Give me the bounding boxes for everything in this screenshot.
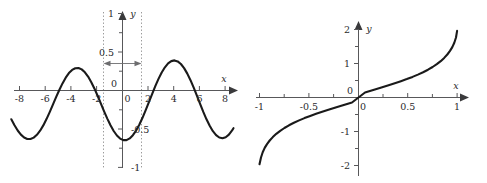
x-tick-label: 0.5 [400,101,415,112]
x-axis-arrowhead [460,94,469,102]
y-axis-name: y [129,8,136,19]
x-tick-label: 1 [454,101,460,112]
y-tick-label: 2 [344,24,350,35]
y-tick-label: -2 [341,160,350,171]
x-tick-label: -1 [255,101,264,112]
measure-arrow-head-right [135,61,142,67]
y-axis-arrowhead [355,21,363,30]
x-tick-label: 8 [222,93,228,104]
x-tick-label: -6 [41,93,50,104]
y-tick-label: 1 [344,58,350,69]
y-axis-name: y [365,23,372,34]
y-tick-label: -0.5 [131,124,149,135]
measure-arrow-head-left [104,61,111,67]
y-axis-arrowhead [119,11,127,20]
y-tick-label: 0.5 [99,47,114,58]
y-tick-label: 1 [108,8,114,19]
x-tick-label: -4 [66,93,75,104]
x-axis-arrowhead [229,87,238,95]
x-axis-name: x [453,80,459,91]
sine-wave-plot: -8 -6 -4 -2 0 2 4 6 8 1 0.5 0 -0.5 -1 x … [0,0,244,183]
x-tick-label-zero: 0 [124,93,130,104]
y-tick-label-zero: 0 [111,78,117,89]
y-tick-label: -1 [341,126,350,137]
figure-root: -8 -6 -4 -2 0 2 4 6 8 1 0.5 0 -0.5 -1 x … [0,0,487,183]
x-tick-label-zero: 0 [360,101,366,112]
sine-wave-svg: -8 -6 -4 -2 0 2 4 6 8 1 0.5 0 -0.5 -1 x … [0,0,244,183]
x-tick-label: 2 [145,93,151,104]
x-axis-name: x [221,73,227,84]
arcsine-svg: -1 -0.5 0 0.5 1 2 1 0 -1 -2 x y [244,0,487,183]
y-tick-label-zero: 0 [347,85,353,96]
x-tick-label: -8 [15,93,24,104]
x-tick-label: -2 [92,93,101,104]
arcsine-plot: -1 -0.5 0 0.5 1 2 1 0 -1 -2 x y [244,0,487,183]
y-tick-label: -1 [131,162,140,173]
x-tick-label: 6 [196,93,202,104]
x-tick-label: 4 [171,93,177,104]
x-tick-label: -0.5 [300,101,318,112]
